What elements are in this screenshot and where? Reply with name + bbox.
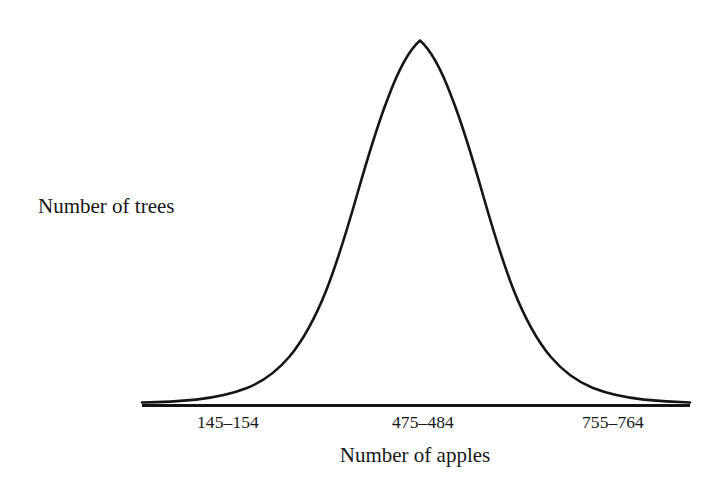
distribution-curve [142, 41, 690, 403]
x-axis-title: Number of apples [255, 443, 575, 468]
x-axis-tick-label-145-154: 145–154 [168, 412, 288, 433]
x-axis-tick-label-755-764: 755–764 [553, 412, 673, 433]
x-axis-tick-label-475-484: 475–484 [363, 412, 483, 433]
y-axis-title: Number of trees [38, 194, 174, 219]
frequency-curve-figure: 145–154 475–484 755–764 Number of apples… [0, 0, 723, 498]
